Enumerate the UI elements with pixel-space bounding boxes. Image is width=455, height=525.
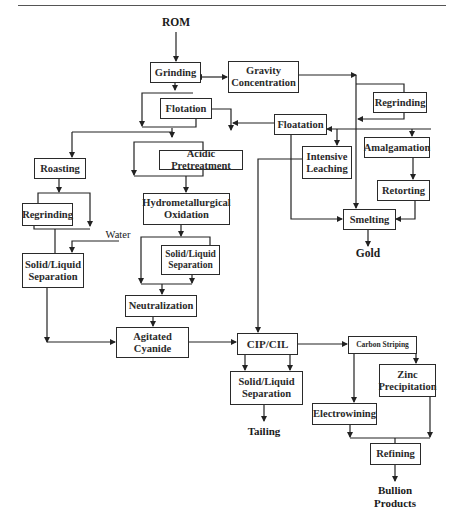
- node-label-line-1: Solid/Liquid: [25, 259, 81, 271]
- node-regrinding-left: Regrinding: [22, 203, 73, 226]
- node-label: Amalgamation: [364, 142, 431, 154]
- node-label-line-1: Hydrometallurgical: [142, 197, 230, 209]
- node-label-line-1: Intensive: [307, 151, 348, 163]
- node-carbon-striping: Carbon Striping: [348, 336, 417, 354]
- node-label: CIP/CIL: [247, 338, 289, 350]
- bullion-line-2: Products: [365, 497, 425, 510]
- node-cip-cil: CIP/CIL: [237, 333, 298, 355]
- node-label-line-2: Separation: [242, 388, 291, 400]
- node-label: Regrinding: [375, 97, 426, 109]
- node-label-line-2: Concentration: [231, 77, 296, 89]
- node-gravity-concentration: Gravity Concentration: [228, 61, 299, 93]
- node-label-line-2: Leaching: [306, 163, 347, 175]
- node-label: Retorting: [382, 185, 425, 197]
- node-label: Electrowining: [313, 408, 376, 420]
- node-label-line-1: Solid/Liquid: [238, 376, 294, 388]
- flowchart-canvas: ROM Gold Water Tailing Bullion Products …: [0, 0, 455, 525]
- node-label-line-1: Gravity: [246, 65, 281, 77]
- node-zinc-precipitation: Zinc Precipitation: [379, 364, 436, 397]
- node-flotation: Flotation: [160, 98, 212, 119]
- node-roasting: Roasting: [34, 158, 86, 179]
- node-agitated-cyanide: Agitated Cyanide: [116, 327, 189, 358]
- rom-label: ROM: [156, 16, 196, 28]
- node-neutralization: Neutralization: [125, 295, 197, 317]
- node-solid-liquid-mid: Solid/Liquid Separation: [161, 245, 220, 275]
- node-label-line-1: Agitated: [133, 331, 172, 343]
- node-retorting: Retorting: [377, 180, 430, 201]
- node-label-line-1: Zinc: [397, 369, 417, 381]
- node-floatation: Floatation: [274, 114, 327, 135]
- node-label-line-1: Solid/Liquid: [165, 249, 216, 260]
- node-amalgamation: Amalgamation: [364, 137, 430, 158]
- node-label: Grinding: [155, 67, 196, 79]
- node-grinding: Grinding: [150, 62, 201, 83]
- node-label: Smelting: [350, 214, 390, 226]
- node-label-line-2: Separation: [168, 260, 212, 271]
- water-label: Water: [100, 229, 136, 240]
- node-label: Acidic Pretreatment: [162, 148, 240, 172]
- node-label: Neutralization: [129, 300, 194, 312]
- bullion-products-label: Bullion Products: [365, 484, 425, 510]
- node-acidic-pretreatment: Acidic Pretreatment: [159, 150, 243, 170]
- node-electrowining: Electrowining: [312, 403, 377, 425]
- node-solid-liquid-bottom: Solid/Liquid Separation: [230, 371, 303, 405]
- node-solid-liquid-left: Solid/Liquid Separation: [22, 253, 84, 288]
- node-hydrometallurgical-oxidation: Hydrometallurgical Oxidation: [143, 193, 230, 225]
- node-label: Flotation: [166, 103, 207, 115]
- node-regrinding-right: Regrinding: [373, 92, 427, 113]
- node-intensive-leaching: Intensive Leaching: [302, 146, 352, 179]
- node-label: Regrinding: [22, 209, 73, 221]
- node-refining: Refining: [370, 443, 421, 465]
- node-smelting: Smelting: [343, 209, 396, 230]
- bullion-line-1: Bullion: [365, 484, 425, 497]
- node-label-line-2: Oxidation: [164, 209, 209, 221]
- node-label-line-2: Separation: [28, 271, 77, 283]
- node-label: Refining: [376, 448, 415, 460]
- node-label: Floatation: [277, 119, 323, 131]
- gold-label: Gold: [348, 247, 388, 259]
- node-label-line-2: Precipitation: [378, 381, 436, 393]
- tailing-label: Tailing: [240, 425, 288, 437]
- node-label-line-2: Cyanide: [134, 343, 171, 355]
- node-label: Carbon Striping: [356, 339, 409, 351]
- node-label: Roasting: [40, 163, 80, 175]
